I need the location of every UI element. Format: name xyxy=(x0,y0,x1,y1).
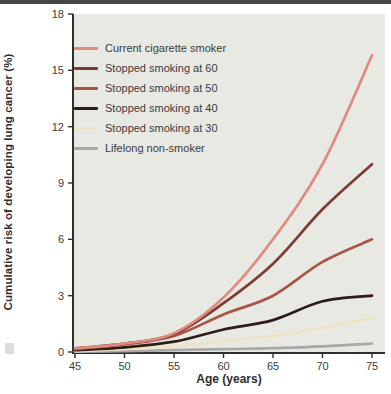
x-tick-label: 60 xyxy=(217,360,229,372)
legend-label: Current cigarette smoker xyxy=(105,42,226,54)
legend-item-non-smoker: Lifelong non-smoker xyxy=(74,138,226,158)
y-tick-label: 15 xyxy=(52,64,64,76)
x-axis-title: Age (years) xyxy=(73,372,385,386)
current-smoker-line-swatch xyxy=(74,47,98,50)
legend-item-stopped-50: Stopped smoking at 50 xyxy=(74,78,226,98)
y-tick-label: 12 xyxy=(52,121,64,133)
legend-item-stopped-40: Stopped smoking at 40 xyxy=(74,98,226,118)
legend-label: Stopped smoking at 60 xyxy=(105,62,218,74)
x-tick-label: 75 xyxy=(366,360,378,372)
legend-item-stopped-60: Stopped smoking at 60 xyxy=(74,58,226,78)
y-tick-label: 6 xyxy=(58,233,64,245)
stopped-30-line-swatch xyxy=(74,127,98,130)
y-tick-label: 9 xyxy=(58,177,64,189)
stopped-50-line-swatch xyxy=(74,87,98,90)
legend-label: Lifelong non-smoker xyxy=(105,142,205,154)
y-tick-label: 3 xyxy=(58,290,64,302)
lung-cancer-risk-figure: 036912151845505560657075 Cumulative risk… xyxy=(0,0,391,394)
legend-label: Stopped smoking at 40 xyxy=(105,102,218,114)
chart-legend: Current cigarette smoker Stopped smoking… xyxy=(74,38,226,158)
legend-item-current-smoker: Current cigarette smoker xyxy=(74,38,226,58)
scan-artifact xyxy=(5,343,14,354)
x-tick-label: 70 xyxy=(316,360,328,372)
x-tick-label: 50 xyxy=(118,360,130,372)
y-tick-label: 0 xyxy=(58,346,64,358)
y-axis-title: Cumulative risk of developing lung cance… xyxy=(2,11,20,353)
stopped-40-line-swatch xyxy=(74,107,98,110)
non-smoker-line-swatch xyxy=(74,147,98,150)
legend-label: Stopped smoking at 50 xyxy=(105,82,218,94)
x-tick-label: 45 xyxy=(69,360,81,372)
y-tick-label: 18 xyxy=(52,8,64,20)
x-tick-label: 55 xyxy=(168,360,180,372)
x-tick-label: 65 xyxy=(267,360,279,372)
legend-label: Stopped smoking at 30 xyxy=(105,122,218,134)
stopped-60-line-swatch xyxy=(74,67,98,70)
legend-item-stopped-30: Stopped smoking at 30 xyxy=(74,118,226,138)
